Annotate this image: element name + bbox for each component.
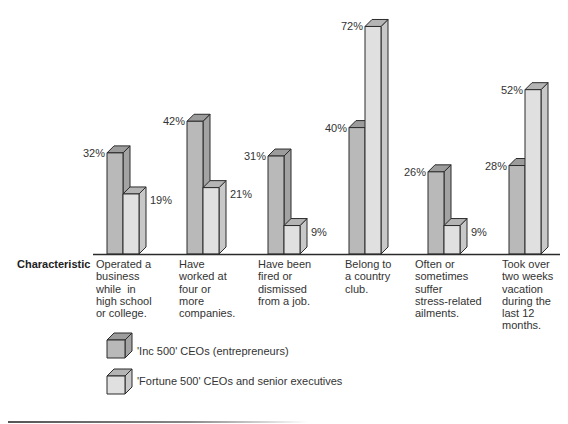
cube-front (107, 376, 125, 394)
category-label-5: Often or sometimes suffer stress-related… (415, 258, 482, 319)
bar-group-1: 32%19% (83, 146, 172, 254)
legend-swatch-fortune500-icon (107, 369, 132, 394)
bar-front-face (349, 128, 365, 254)
bar-group-6: 28%52% (485, 83, 548, 254)
bar-front-face (284, 226, 300, 254)
bar-group-4: 40%72% (325, 19, 388, 254)
legend-label-inc500: 'Inc 500' CEOs (entrepreneurs) (137, 345, 289, 357)
value-label-inc500: 28% (485, 160, 507, 172)
value-label-fortune500: 52% (501, 84, 523, 96)
bar-front-face (509, 166, 525, 254)
bar-front-face (203, 188, 219, 254)
bar-fortune500 (525, 83, 548, 254)
bar-front-face (187, 121, 203, 254)
bottom-rule-divider (8, 421, 308, 423)
bar-front-face (107, 153, 123, 254)
bar-group-2: 42%21% (163, 114, 252, 254)
x-axis-label: Characteristic (17, 258, 90, 270)
bar-front-face (365, 26, 381, 254)
value-label-inc500: 32% (83, 147, 105, 159)
value-label-fortune500: 9% (311, 226, 327, 238)
legend-swatches (107, 333, 132, 394)
value-label-fortune500: 21% (230, 188, 252, 200)
value-label-inc500: 26% (404, 166, 426, 178)
bar-fortune500 (123, 187, 146, 254)
bar-group-3: 31%9% (244, 149, 327, 254)
bar-side-face (219, 181, 226, 254)
value-label-fortune500: 9% (471, 226, 487, 238)
bar-front-face (428, 172, 444, 254)
category-label-3: Have been fired or dismissed from a job. (258, 258, 311, 307)
bar-front-face (525, 90, 541, 254)
value-label-inc500: 40% (325, 122, 347, 134)
cube-front (107, 340, 125, 358)
category-label-1: Operated a business while in high school… (96, 258, 152, 319)
bar-front-face (123, 194, 139, 254)
value-label-inc500: 42% (163, 115, 185, 127)
bar-fortune500 (365, 19, 388, 254)
legend-swatch-inc500-icon (107, 333, 132, 358)
bar-side-face (381, 19, 388, 254)
category-label-4: Belong to a country club. (345, 258, 391, 295)
bar-side-face (139, 187, 146, 254)
bar-front-face (268, 156, 284, 254)
bar-group-5: 26%9% (404, 165, 487, 254)
value-label-fortune500: 19% (150, 194, 172, 206)
bar-side-face (541, 83, 548, 254)
legend-label-fortune500: 'Fortune 500' CEOs and senior executives (137, 375, 342, 387)
value-label-fortune500: 72% (341, 20, 363, 32)
bar-fortune500 (203, 181, 226, 254)
bar-groups: 32%19%42%21%31%9%40%72%26%9%28%52% (83, 19, 548, 254)
bar-fortune500 (284, 219, 307, 254)
bar-fortune500 (444, 219, 467, 254)
value-label-inc500: 31% (244, 150, 266, 162)
bar-front-face (444, 226, 460, 254)
bar-chart: 32%19%42%21%31%9%40%72%26%9%28%52% (0, 0, 568, 424)
category-label-2: Have worked at four or more companies. (179, 258, 235, 319)
category-label-6: Took over two weeks vacation during the … (502, 258, 553, 332)
